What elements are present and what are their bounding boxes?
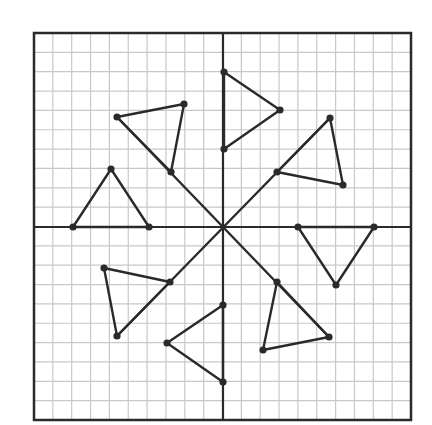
vertex-point: [220, 145, 227, 152]
vertex-point: [163, 339, 170, 346]
vertex-point: [107, 165, 114, 172]
vertex-point: [100, 264, 107, 271]
vertex-point: [113, 113, 120, 120]
vertex-point: [332, 281, 339, 288]
vertex-point: [69, 223, 76, 230]
vertex-point: [325, 333, 332, 340]
vertex-point: [166, 278, 173, 285]
vertex-point: [113, 332, 120, 339]
triangle-bottom: [163, 301, 226, 385]
vertex-point: [180, 100, 187, 107]
vertex-point: [167, 168, 174, 175]
vertex-point: [370, 223, 377, 230]
triangle-bottom-left: [100, 264, 173, 339]
vertex-point: [145, 223, 152, 230]
vertex-point: [273, 278, 280, 285]
triangle-left-outline: [73, 169, 149, 227]
triangle-bottom-outline: [167, 305, 223, 382]
vertex-point: [273, 168, 280, 175]
vertex-point: [326, 114, 333, 121]
coordinate-grid-diagram: [0, 0, 432, 425]
triangle-bottom-left-outline: [104, 268, 170, 336]
triangle-bottom-right-outline: [263, 282, 329, 350]
vertex-point: [259, 346, 266, 353]
triangle-top-left-outline: [117, 104, 184, 172]
vertex-point: [339, 181, 346, 188]
triangle-top-left: [113, 100, 187, 175]
vertex-point: [219, 378, 226, 385]
vertex-point: [219, 301, 226, 308]
vertex-point: [220, 68, 227, 75]
vertex-point: [276, 106, 283, 113]
triangle-top-right-outline: [277, 118, 343, 185]
triangle-left: [69, 165, 152, 230]
vertex-point: [294, 223, 301, 230]
